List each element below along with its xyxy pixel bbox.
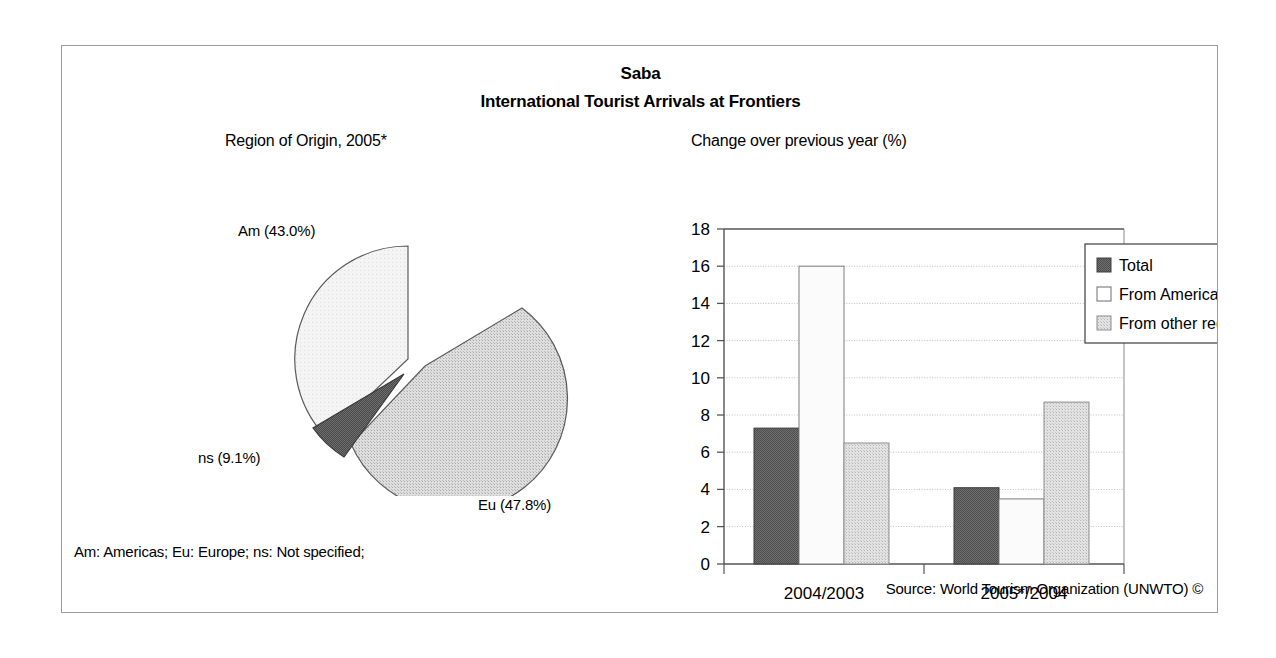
bar-from-americas-2005 [999, 499, 1044, 564]
x-tick-label-2004: 2004/2003 [784, 584, 864, 603]
bar-from-other-2005 [1044, 402, 1089, 564]
y-tick-label: 6 [701, 443, 710, 462]
pie-label-europe: Eu (47.8%) [478, 496, 551, 513]
y-tick-label: 18 [691, 220, 710, 239]
legend-swatch-total [1097, 258, 1111, 272]
legend-label-total: Total [1119, 257, 1153, 274]
page-title: Saba [62, 64, 1219, 84]
bar-chart-title: Change over previous year (%) [691, 132, 907, 150]
chart-page: Saba International Tourist Arrivals at F… [0, 0, 1276, 658]
bar-from-americas-2004 [799, 266, 844, 564]
abbreviation-note: Am: Americas; Eu: Europe; ns: Not specif… [74, 543, 365, 560]
y-axis-tick-labels: 18 16 14 12 10 8 6 4 2 0 [691, 220, 710, 574]
y-tick-label: 16 [691, 257, 710, 276]
legend-label-from-americas: From Americas [1119, 286, 1217, 303]
pie-chart: Am (43.0%) ns (9.1%) Eu (47.8%) [212, 166, 632, 496]
pie-chart-title: Region of Origin, 2005* [225, 132, 387, 150]
legend-swatch-from-other [1097, 316, 1111, 330]
y-tick-label: 12 [691, 332, 710, 351]
bar-total-2005 [954, 488, 999, 564]
y-axis-ticks [717, 229, 724, 564]
bar-chart-svg: 18 16 14 12 10 8 6 4 2 0 [657, 166, 1217, 606]
legend-label-from-other: From other regions [1119, 315, 1217, 332]
pie-label-americas: Am (43.0%) [238, 222, 315, 239]
pie-label-not-specified: ns (9.1%) [198, 449, 260, 466]
bar-total-2004 [754, 428, 799, 564]
chart-legend: Total From Americas From other regions [1085, 244, 1217, 343]
bar-chart: 18 16 14 12 10 8 6 4 2 0 [657, 166, 1217, 606]
chart-frame: Saba International Tourist Arrivals at F… [61, 45, 1218, 613]
bar-from-other-2004 [844, 443, 889, 564]
source-note: Source: World Tourism Organization (UNWT… [886, 580, 1203, 597]
y-tick-label: 2 [701, 518, 710, 537]
y-tick-label: 8 [701, 406, 710, 425]
page-subtitle: International Tourist Arrivals at Fronti… [62, 92, 1219, 112]
y-tick-label: 0 [701, 555, 710, 574]
legend-swatch-from-americas [1097, 287, 1111, 301]
pie-chart-svg [212, 166, 632, 496]
y-tick-label: 4 [701, 480, 710, 499]
y-tick-label: 10 [691, 369, 710, 388]
y-tick-label: 14 [691, 294, 710, 313]
